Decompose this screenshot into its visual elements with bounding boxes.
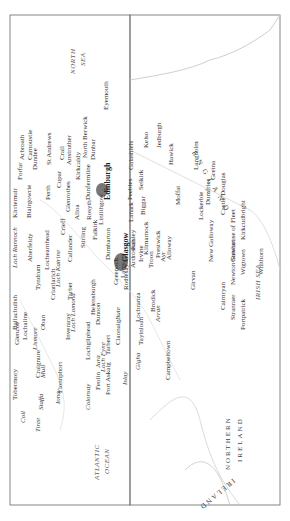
- place: Dunoon: [95, 302, 102, 325]
- place: Newton Stewart: [230, 240, 237, 285]
- water-feature: Coll: [20, 411, 27, 423]
- place: Blairgowrie: [26, 185, 33, 218]
- place: Ballachulish: [12, 295, 19, 330]
- place: Kirriemuir: [12, 188, 19, 218]
- place: Dunbar: [90, 139, 97, 160]
- water-feature: Loch Katrine: [55, 250, 62, 287]
- place: Hawick: [168, 143, 175, 165]
- place: Tayinloan: [138, 317, 145, 345]
- place: Kirkcudbright: [240, 200, 247, 240]
- place: Galashiels: [128, 141, 135, 170]
- place: Cupar: [56, 171, 63, 188]
- place: Alloa: [74, 204, 81, 220]
- place: Tyndrum: [35, 264, 42, 290]
- place: Alloway: [166, 236, 173, 260]
- water-feature: Islay: [122, 371, 129, 385]
- water-feature: Tiree: [35, 418, 42, 432]
- place: St Andrews: [46, 133, 53, 165]
- place: Arbroath: [19, 135, 26, 160]
- place: Lanark: [128, 202, 135, 222]
- water-feature: Mull: [40, 365, 47, 378]
- place: Oban: [40, 315, 47, 330]
- place: Tobermory: [12, 369, 19, 400]
- water-feature: Iona: [55, 391, 62, 404]
- northern-ireland-label: NORTHERN: [225, 416, 232, 470]
- place: Ardrossan: [130, 239, 137, 268]
- place: Kilmarnock: [143, 222, 150, 255]
- place: Crieff: [60, 218, 67, 235]
- water-feature: Lismore: [32, 327, 39, 350]
- place: Dumbarton: [105, 228, 112, 260]
- place: Rosyth: [86, 200, 93, 220]
- place: Aberfeldy: [27, 234, 34, 262]
- place: Langholm: [193, 141, 200, 170]
- place: Claonaig: [115, 320, 122, 345]
- water-feature: Arran: [155, 305, 162, 322]
- place: Portpatrick: [240, 299, 247, 330]
- place: Cairnryan: [220, 282, 227, 310]
- place: New Galloway: [208, 220, 215, 262]
- place: Fionnphort: [57, 362, 64, 393]
- north-sea-label: NORTH: [70, 49, 77, 74]
- place: Anstruther: [66, 135, 73, 165]
- water-feature: Bute: [115, 307, 122, 320]
- place: North Berwick: [82, 116, 89, 158]
- place: Callander: [67, 235, 74, 262]
- place: Falkirk: [92, 220, 99, 240]
- place: Dumfries: [205, 179, 212, 205]
- place: Feolin: [95, 372, 102, 390]
- northern-ireland-label-2: IRELAND: [237, 417, 244, 462]
- water-feature: Colonsay: [85, 384, 92, 410]
- place: Lochaline: [22, 312, 29, 340]
- place: Dunfermline: [85, 164, 92, 200]
- place: Lochgilphead: [85, 322, 92, 361]
- place: Gretna: [210, 161, 217, 180]
- place: Eyemouth: [103, 81, 110, 110]
- place: Jedburgh: [156, 122, 163, 148]
- place: Girvan: [190, 271, 197, 290]
- place: Linlithgow: [98, 194, 105, 225]
- place: Whithorn: [258, 248, 265, 275]
- place: Castle Douglas: [220, 172, 227, 215]
- place: Biggar: [140, 196, 147, 215]
- place: Lochearnhead: [44, 230, 51, 270]
- water-feature: Staffa: [38, 394, 45, 410]
- water-feature: Loch Lomond: [70, 293, 77, 332]
- place: Selkirk: [138, 170, 145, 190]
- place: Stranraer: [230, 294, 237, 320]
- place: Perth: [45, 185, 52, 200]
- place: Forfar: [17, 163, 24, 181]
- city-edinburgh: Edinburgh: [104, 163, 112, 200]
- place: Kelso: [143, 132, 150, 148]
- place: Stirling: [80, 227, 87, 248]
- water-feature: Gigha: [135, 353, 142, 371]
- place: Glenrothes: [65, 181, 72, 212]
- ocean-label: OCEAN: [104, 449, 111, 474]
- place: Dundee: [32, 148, 39, 170]
- north-sea-label-2: SEA: [80, 52, 87, 66]
- place: Moffat: [175, 186, 182, 205]
- place: Peebles: [127, 179, 134, 200]
- place: Wigtown: [240, 249, 247, 275]
- atlantic-label: ATLANTIC: [94, 444, 101, 480]
- water-feature: Loch Rannoch: [12, 227, 19, 268]
- place: Campbeltown: [165, 341, 172, 380]
- water-feature: Jura: [95, 355, 102, 368]
